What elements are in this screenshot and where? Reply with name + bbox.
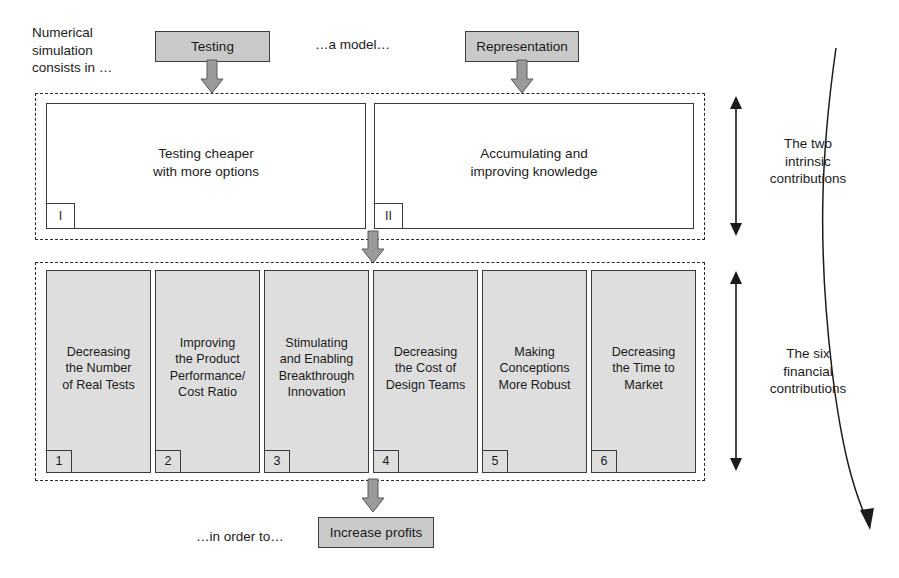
chip-testing[interactable]: Testing — [155, 31, 270, 62]
financial-box-6-label: Decreasing the Time to Market — [593, 344, 694, 394]
financial-box-2[interactable]: Improving the Product Performance/ Cost … — [155, 270, 260, 473]
diagram-canvas: Numerical simulation consists in … …a mo… — [0, 0, 899, 578]
financial-box-4[interactable]: Decreasing the Cost of Design Teams 4 — [373, 270, 478, 473]
double-arrow-intrinsic — [727, 96, 745, 236]
intrinsic-box-1-label: Testing cheaper with more options — [47, 145, 365, 181]
financial-box-4-label: Decreasing the Cost of Design Teams — [375, 344, 476, 394]
caption-in-order-to: …in order to… — [196, 528, 316, 546]
caption-a-model: …a model… — [315, 36, 435, 54]
arrow-down-testing — [200, 60, 224, 94]
financial-box-1[interactable]: Decreasing the Number of Real Tests 1 — [46, 270, 151, 473]
financial-box-2-label: Improving the Product Performance/ Cost … — [157, 334, 258, 400]
financial-box-5-number: 5 — [482, 450, 508, 473]
arrow-down-to-increase-profits — [361, 479, 385, 513]
caption-numerical-simulation: Numerical simulation consists in … — [32, 24, 147, 77]
chip-increase-profits[interactable]: Increase profits — [318, 517, 434, 548]
financial-box-2-number: 2 — [155, 450, 181, 473]
intrinsic-box-1-number: I — [46, 203, 75, 229]
financial-box-1-number: 1 — [46, 450, 72, 473]
financial-box-5[interactable]: Making Conceptions More Robust 5 — [482, 270, 587, 473]
financial-box-3[interactable]: Stimulating and Enabling Breakthrough In… — [264, 270, 369, 473]
financial-box-6-number: 6 — [591, 450, 617, 473]
financial-box-5-label: Making Conceptions More Robust — [484, 344, 585, 394]
intrinsic-box-2-label: Accumulating and improving knowledge — [375, 145, 693, 181]
financial-box-3-label: Stimulating and Enabling Breakthrough In… — [266, 334, 367, 400]
intrinsic-box-1[interactable]: Testing cheaper with more options I — [46, 103, 366, 229]
arrow-down-intrinsic-to-financial — [361, 231, 385, 264]
financial-box-6[interactable]: Decreasing the Time to Market 6 — [591, 270, 696, 473]
intrinsic-box-2-number: II — [374, 203, 403, 229]
financial-box-1-label: Decreasing the Number of Real Tests — [48, 344, 149, 394]
curved-flow-arrow — [810, 40, 890, 540]
double-arrow-financial — [727, 271, 745, 471]
chip-representation[interactable]: Representation — [465, 31, 579, 62]
arrow-down-representation — [510, 60, 534, 94]
financial-box-4-number: 4 — [373, 450, 399, 473]
financial-box-3-number: 3 — [264, 450, 290, 473]
intrinsic-box-2[interactable]: Accumulating and improving knowledge II — [374, 103, 694, 229]
